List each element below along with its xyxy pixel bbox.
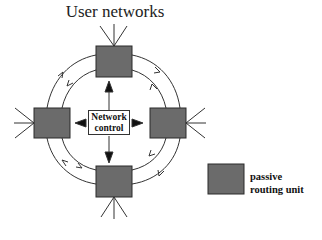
routing-unit-left: [34, 108, 70, 138]
legend-swatch: [208, 164, 244, 194]
network-control-line2: control: [89, 123, 129, 134]
legend-line1: passive: [250, 170, 304, 183]
network-control-line1: Network: [89, 112, 129, 123]
routing-unit-top: [96, 46, 132, 77]
network-control-box: Network control: [88, 110, 130, 135]
routing-unit-bottom: [96, 166, 132, 197]
legend-label: passive routing unit: [250, 170, 304, 196]
routing-unit-right: [150, 108, 186, 138]
legend-line2: routing unit: [250, 183, 304, 196]
